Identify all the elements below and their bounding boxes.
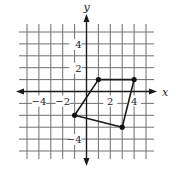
- y-axis-arrow-down-icon: [84, 158, 90, 166]
- coordinate-plane-figure: −4−22442−4 x y: [0, 0, 179, 177]
- x-tick-label: 2: [107, 96, 113, 107]
- x-axis-arrow-left-icon: [16, 89, 24, 95]
- x-axis-arrow-right-icon: [149, 89, 157, 95]
- x-tick-label: −4: [32, 96, 47, 107]
- x-tick-label: −2: [55, 96, 70, 107]
- vertex-point: [96, 77, 101, 82]
- vertex-point: [72, 113, 77, 118]
- y-axis-arrow-up-icon: [84, 14, 90, 22]
- y-axis-label: y: [83, 1, 91, 14]
- x-tick-label: 4: [131, 96, 137, 107]
- axes: [16, 14, 157, 166]
- vertex-point: [120, 125, 125, 130]
- y-tick-label: 2: [75, 63, 81, 74]
- coordinate-plane: −4−22442−4 x y: [0, 0, 179, 177]
- y-tick-label: −4: [67, 134, 82, 145]
- vertex-point: [132, 77, 137, 82]
- y-tick-label: 4: [75, 39, 81, 50]
- x-axis-label: x: [162, 86, 169, 99]
